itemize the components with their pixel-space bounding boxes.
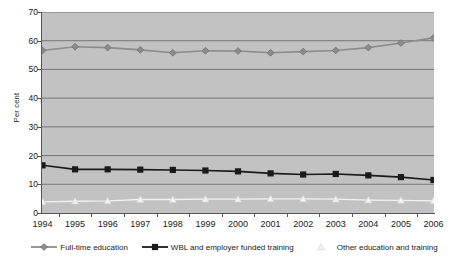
data-point-diamond (104, 44, 111, 51)
data-point-square (202, 167, 208, 173)
x-tick-mark (417, 213, 418, 217)
x-tick-label: 1994 (27, 219, 59, 229)
plot-area (42, 12, 434, 213)
data-point-diamond (235, 48, 242, 55)
data-point-diamond (300, 48, 307, 55)
data-point-diamond (267, 49, 274, 56)
x-tick-mark (124, 213, 125, 217)
y-axis-title: Per cent (12, 78, 21, 138)
data-point-square (170, 167, 176, 173)
y-tick-label: 20 (4, 152, 38, 160)
data-point-square (300, 171, 306, 177)
legend-marker-diamond-icon (31, 242, 57, 252)
x-tick-label: 1995 (59, 219, 91, 229)
x-tick-mark (157, 213, 158, 217)
data-point-square (267, 170, 273, 176)
x-tick-mark (222, 213, 223, 217)
x-tick-mark (319, 213, 320, 217)
series-diamond (42, 34, 434, 56)
x-tick-label: 1999 (189, 219, 221, 229)
data-point-square (137, 167, 143, 173)
data-point-diamond (169, 49, 176, 56)
legend-label: Other education and training (337, 243, 438, 252)
y-tick-label: 50 (4, 65, 38, 73)
x-tick-label: 2004 (352, 219, 384, 229)
x-tick-mark (254, 213, 255, 217)
data-point-square (235, 168, 241, 174)
x-tick-label: 2000 (222, 219, 254, 229)
plot-svg (42, 12, 434, 213)
data-point-diamond (137, 47, 144, 54)
data-point-diamond (430, 34, 434, 41)
legend-label: WBL and employer funded training (171, 243, 294, 252)
x-tick-mark (385, 213, 386, 217)
series-triangle (42, 195, 434, 204)
x-tick-mark (189, 213, 190, 217)
y-axis-line (41, 12, 42, 214)
legend-marker-triangle-icon (308, 242, 334, 252)
legend-label: Full-time education (60, 243, 128, 252)
legend-item[interactable]: Full-time education (31, 242, 128, 252)
x-tick-label: 2006 (418, 219, 450, 229)
legend-item[interactable]: Other education and training (308, 242, 438, 252)
data-point-square (152, 244, 158, 250)
data-point-square (333, 171, 339, 177)
data-point-diamond (202, 47, 209, 54)
legend-marker-square-icon (142, 242, 168, 252)
data-point-diamond (42, 47, 46, 54)
x-tick-mark (352, 213, 353, 217)
y-tick-label: 30 (4, 123, 38, 131)
y-tick-label: 10 (4, 180, 38, 188)
x-tick-label: 2002 (287, 219, 319, 229)
data-point-diamond (41, 244, 48, 251)
line-chart: 010203040506070 Per cent 199419951996199… (0, 0, 469, 261)
y-tick-label: 0 (4, 209, 38, 217)
y-tick-label: 40 (4, 94, 38, 102)
x-tick-label: 2001 (255, 219, 287, 229)
legend-item[interactable]: WBL and employer funded training (142, 242, 294, 252)
x-tick-mark (91, 213, 92, 217)
x-tick-label: 2005 (385, 219, 417, 229)
data-point-square (430, 177, 434, 183)
x-tick-label: 1996 (92, 219, 124, 229)
x-tick-label: 1998 (157, 219, 189, 229)
data-point-square (365, 172, 371, 178)
data-point-diamond (365, 44, 372, 51)
data-point-diamond (332, 47, 339, 54)
x-axis-ticks: 1994199519961997199819992000200120022003… (42, 213, 434, 239)
data-point-triangle (317, 243, 324, 249)
data-point-square (105, 166, 111, 172)
x-tick-mark (59, 213, 60, 217)
x-tick-mark (287, 213, 288, 217)
x-tick-label: 1997 (124, 219, 156, 229)
data-point-diamond (72, 43, 79, 50)
data-point-square (72, 166, 78, 172)
y-tick-label: 60 (4, 37, 38, 45)
data-point-square (42, 162, 46, 168)
chart-legend: Full-time educationWBL and employer fund… (0, 240, 469, 254)
y-tick-label: 70 (4, 8, 38, 16)
data-point-square (398, 174, 404, 180)
series-square (42, 162, 434, 183)
x-tick-label: 2003 (320, 219, 352, 229)
